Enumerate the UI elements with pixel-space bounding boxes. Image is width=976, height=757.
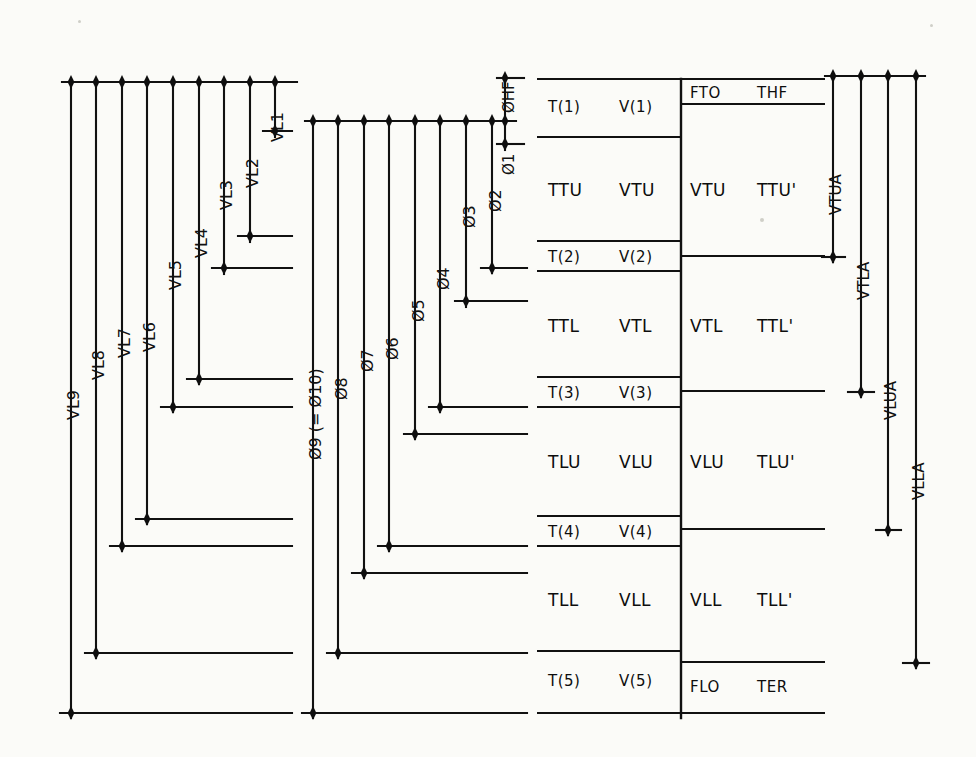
diagram-canvas: VL1 VL2 VL3 VL4 VL5 VL6 VL7 VL8 VL9 ØHF … (0, 0, 976, 757)
table-cell-t3: T(3) (548, 384, 580, 402)
table-cell-v2: V(2) (619, 248, 653, 266)
table-cell-ttu-p: TTU' (757, 180, 797, 200)
table-rules (538, 79, 824, 718)
bar-label-vl6: VL6 (140, 322, 159, 352)
table-cell-fto: FTO (690, 84, 721, 102)
paper-speck (760, 218, 764, 222)
bar-label-phi4: Ø4 (434, 267, 453, 290)
bar-label-vlua: VLUA (882, 381, 900, 420)
bar-label-vl9: VL9 (64, 390, 83, 420)
table-cell-vlu: VLU (619, 452, 653, 472)
table-cell-t2: T(2) (548, 248, 580, 266)
table-cell-ter: TER (757, 678, 788, 696)
bar-label-phi8: Ø8 (332, 377, 351, 400)
table-cell-vll: VLL (619, 590, 651, 610)
table-cell-tll: TLL (548, 590, 579, 610)
bar-label-vl1: VL1 (268, 112, 287, 142)
table-cell-vtu-r: VTU (690, 180, 726, 200)
right-group (822, 76, 929, 668)
bar-label-phi5: Ø5 (409, 299, 428, 322)
paper-speck (930, 24, 933, 27)
table-cell-vtu: VTU (619, 180, 655, 200)
table-cell-t1: T(1) (548, 98, 580, 116)
table-cell-ttu: TTU (548, 180, 582, 200)
table-cell-v1: V(1) (619, 98, 653, 116)
bar-label-phi7: Ø7 (358, 349, 377, 372)
table-cell-vtl-r: VTL (690, 316, 723, 336)
table-cell-flo: FLO (690, 678, 720, 696)
table-cell-v5: V(5) (619, 672, 653, 690)
bar-label-vl4: VL4 (192, 228, 211, 258)
table-cell-vll-r: VLL (690, 590, 722, 610)
bar-label-vlla: VLLA (910, 462, 928, 500)
table-cell-tlu: TLU (548, 452, 581, 472)
paper-speck (78, 20, 81, 23)
bar-label-vl8: VL8 (89, 350, 108, 380)
bar-label-vl2: VL2 (243, 158, 262, 188)
bar-label-vl3: VL3 (217, 180, 236, 210)
bar-label-phi9: Ø9 (= Ø10) (306, 368, 325, 460)
table-cell-ttl-p: TTL' (757, 316, 794, 336)
bar-label-vtla: VTLA (855, 262, 873, 300)
bar-label-phi6: Ø6 (383, 337, 402, 360)
table-cell-tlu-p: TLU' (757, 452, 795, 472)
table-cell-t4: T(4) (548, 523, 580, 541)
table-cell-thf: THF (757, 84, 788, 102)
bar-label-phi2: Ø2 (486, 189, 505, 212)
bar-label-vl7: VL7 (115, 328, 134, 358)
table-cell-t5: T(5) (548, 672, 580, 690)
bar-label-phihf: ØHF (500, 81, 518, 113)
table-cell-ttl: TTL (548, 316, 579, 336)
bar-label-vtua: VTUA (827, 174, 845, 215)
ladder-diagram-svg (0, 0, 976, 757)
bar-label-vl5: VL5 (166, 260, 185, 290)
right-group-nodes (830, 69, 920, 670)
table-cell-vtl: VTL (619, 316, 652, 336)
bar-label-phi1: Ø1 (500, 154, 518, 175)
table-cell-tll-p: TLL' (757, 590, 793, 610)
table-cell-v4: V(4) (619, 523, 653, 541)
bar-label-phi3: Ø3 (460, 205, 479, 228)
table-cell-vlu-r: VLU (690, 452, 724, 472)
table-cell-v3: V(3) (619, 384, 653, 402)
